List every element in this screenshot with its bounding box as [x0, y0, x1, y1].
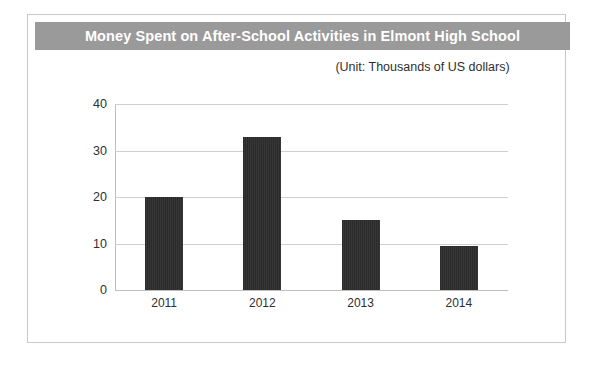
bar-2014 — [440, 246, 478, 290]
y-tick-label-0: 0 — [67, 283, 107, 297]
chart-subtitle-unit: (Unit: Thousands of US dollars) — [300, 60, 545, 74]
y-tick-label-30: 30 — [67, 144, 107, 158]
gridline-y-30 — [115, 151, 508, 152]
gridline-y-40 — [115, 104, 508, 105]
y-axis-tick-labels: 010203040 — [65, 104, 107, 290]
x-tick-label-2014: 2014 — [446, 296, 473, 310]
plot-area — [115, 104, 508, 290]
y-tick-label-20: 20 — [67, 190, 107, 204]
y-tick-label-40: 40 — [67, 97, 107, 111]
bar-chart-figure: Money Spent on After-School Activities i… — [0, 0, 595, 365]
chart-title-banner: Money Spent on After-School Activities i… — [35, 22, 570, 50]
chart-title: Money Spent on After-School Activities i… — [85, 28, 520, 44]
gridline-y-0 — [115, 290, 508, 291]
bar-2012 — [243, 137, 281, 290]
x-tick-label-2013: 2013 — [347, 296, 374, 310]
x-tick-label-2012: 2012 — [249, 296, 276, 310]
bar-2011 — [145, 197, 183, 290]
y-tick-label-10: 10 — [67, 237, 107, 251]
x-tick-label-2011: 2011 — [151, 296, 177, 310]
bar-2013 — [342, 220, 380, 290]
